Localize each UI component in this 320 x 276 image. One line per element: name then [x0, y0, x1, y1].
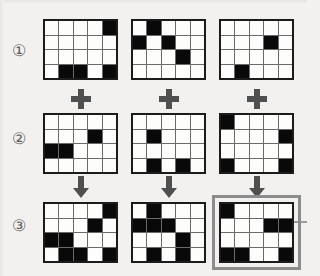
grid-cell[interactable]: [279, 115, 292, 129]
grid-cell[interactable]: [74, 233, 87, 247]
grid-cell[interactable]: [103, 204, 116, 218]
grid-cell[interactable]: [162, 204, 175, 218]
grid-cell[interactable]: [250, 219, 263, 233]
grid-cell[interactable]: [45, 233, 58, 247]
grid-cell[interactable]: [221, 36, 234, 50]
grid-cell[interactable]: [147, 219, 160, 233]
grid-1-3[interactable]: [219, 19, 294, 80]
grid-cell[interactable]: [133, 159, 146, 173]
grid-cell[interactable]: [88, 65, 101, 79]
grid-cell[interactable]: [279, 130, 292, 144]
grid-cell[interactable]: [191, 21, 204, 35]
grid-cell[interactable]: [221, 144, 234, 158]
grid-cell[interactable]: [45, 21, 58, 35]
grid-1-2[interactable]: [131, 19, 206, 80]
grid-cell[interactable]: [133, 144, 146, 158]
grid-cell[interactable]: [74, 115, 87, 129]
grid-cell[interactable]: [162, 36, 175, 50]
grid-cell[interactable]: [176, 204, 189, 218]
grid-cell[interactable]: [103, 248, 116, 262]
grid-cell[interactable]: [74, 65, 87, 79]
grid-cell[interactable]: [147, 159, 160, 173]
grid-cell[interactable]: [279, 219, 292, 233]
grid-cell[interactable]: [45, 159, 58, 173]
grid-cell[interactable]: [45, 219, 58, 233]
grid-cell[interactable]: [235, 65, 248, 79]
grid-cell[interactable]: [103, 115, 116, 129]
grid-cell[interactable]: [235, 248, 248, 262]
grid-cell[interactable]: [264, 144, 277, 158]
grid-cell[interactable]: [250, 144, 263, 158]
grid-cell[interactable]: [147, 36, 160, 50]
grid-cell[interactable]: [235, 144, 248, 158]
grid-cell[interactable]: [221, 204, 234, 218]
grid-cell[interactable]: [133, 50, 146, 64]
grid-2-1[interactable]: [43, 113, 118, 174]
grid-cell[interactable]: [74, 50, 87, 64]
grid-cell[interactable]: [250, 130, 263, 144]
grid-cell[interactable]: [235, 130, 248, 144]
grid-cell[interactable]: [191, 65, 204, 79]
grid-cell[interactable]: [103, 65, 116, 79]
grid-cell[interactable]: [133, 65, 146, 79]
grid-cell[interactable]: [221, 233, 234, 247]
grid-cell[interactable]: [59, 21, 72, 35]
grid-cell[interactable]: [176, 115, 189, 129]
grid-cell[interactable]: [88, 50, 101, 64]
grid-cell[interactable]: [59, 233, 72, 247]
grid-cell[interactable]: [162, 233, 175, 247]
grid-cell[interactable]: [133, 130, 146, 144]
grid-cell[interactable]: [264, 248, 277, 262]
grid-cell[interactable]: [147, 248, 160, 262]
grid-cell[interactable]: [45, 36, 58, 50]
grid-cell[interactable]: [74, 36, 87, 50]
grid-cell[interactable]: [147, 115, 160, 129]
grid-cell[interactable]: [221, 115, 234, 129]
grid-cell[interactable]: [59, 115, 72, 129]
grid-cell[interactable]: [191, 159, 204, 173]
grid-cell[interactable]: [279, 144, 292, 158]
grid-cell[interactable]: [45, 130, 58, 144]
grid-cell[interactable]: [176, 65, 189, 79]
grid-cell[interactable]: [59, 159, 72, 173]
grid-cell[interactable]: [176, 21, 189, 35]
grid-cell[interactable]: [162, 115, 175, 129]
grid-cell[interactable]: [88, 219, 101, 233]
grid-cell[interactable]: [235, 219, 248, 233]
grid-cell[interactable]: [59, 144, 72, 158]
grid-cell[interactable]: [147, 204, 160, 218]
grid-cell[interactable]: [250, 233, 263, 247]
grid-cell[interactable]: [162, 21, 175, 35]
grid-cell[interactable]: [88, 233, 101, 247]
grid-cell[interactable]: [133, 21, 146, 35]
grid-cell[interactable]: [264, 115, 277, 129]
grid-cell[interactable]: [147, 21, 160, 35]
grid-cell[interactable]: [191, 36, 204, 50]
grid-cell[interactable]: [264, 50, 277, 64]
grid-cell[interactable]: [147, 233, 160, 247]
grid-cell[interactable]: [250, 204, 263, 218]
grid-cell[interactable]: [264, 204, 277, 218]
grid-cell[interactable]: [279, 50, 292, 64]
grid-cell[interactable]: [279, 159, 292, 173]
grid-cell[interactable]: [176, 36, 189, 50]
grid-cell[interactable]: [264, 130, 277, 144]
grid-2-2[interactable]: [131, 113, 206, 174]
grid-cell[interactable]: [133, 219, 146, 233]
grid-cell[interactable]: [45, 50, 58, 64]
grid-cell[interactable]: [45, 65, 58, 79]
grid-cell[interactable]: [235, 204, 248, 218]
grid-cell[interactable]: [147, 144, 160, 158]
grid-cell[interactable]: [103, 130, 116, 144]
grid-cell[interactable]: [59, 50, 72, 64]
grid-cell[interactable]: [221, 219, 234, 233]
grid-cell[interactable]: [235, 21, 248, 35]
grid-cell[interactable]: [59, 36, 72, 50]
grid-cell[interactable]: [88, 159, 101, 173]
grid-cell[interactable]: [221, 65, 234, 79]
grid-cell[interactable]: [45, 144, 58, 158]
grid-cell[interactable]: [133, 36, 146, 50]
grid-cell[interactable]: [221, 159, 234, 173]
grid-cell[interactable]: [147, 130, 160, 144]
grid-cell[interactable]: [133, 248, 146, 262]
